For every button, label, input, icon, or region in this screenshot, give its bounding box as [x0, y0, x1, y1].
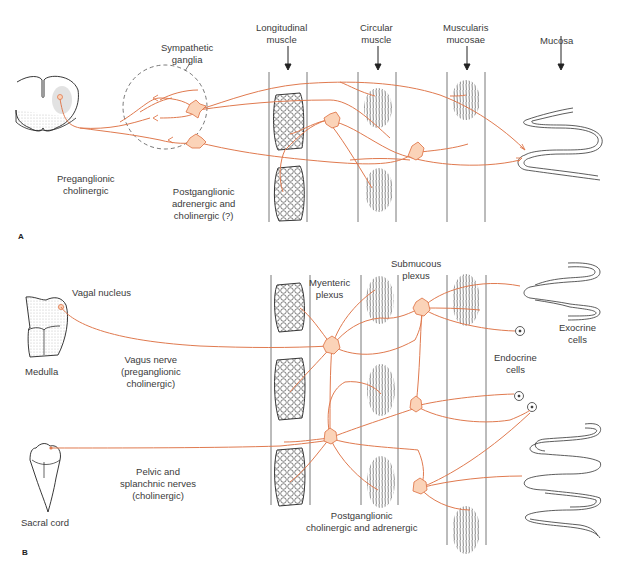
- label-myenteric-plexus: Myenteric plexus: [309, 277, 350, 301]
- muscularis-mucosae-cells-b: [452, 274, 480, 554]
- label-medulla: Medulla: [25, 366, 58, 378]
- label-muscularis-mucosae: Muscularis mucosae: [443, 22, 488, 46]
- circular-muscle-cells-b: [366, 276, 395, 508]
- label-mucosa: Mucosa: [540, 35, 573, 47]
- label-pelvic-splanchnic-nerves: Pelvic and splanchnic nerves (cholinergi…: [120, 466, 196, 502]
- layer-pointer-arrows-a: [285, 36, 564, 70]
- label-exocrine-cells: Exocrine cells: [559, 322, 596, 346]
- sacral-cord-icon: [30, 444, 61, 512]
- muscularis-mucosae-cells-a: [452, 80, 480, 120]
- panel-letter-a: A: [18, 232, 24, 241]
- label-endocrine-cells: Endocrine cells: [494, 352, 537, 376]
- label-sympathetic-ganglia: Sympathetic ganglia: [161, 42, 213, 66]
- label-sacral-cord: Sacral cord: [21, 517, 69, 529]
- label-preganglionic-cholinergic: Preganglionic cholinergic: [57, 173, 115, 197]
- label-vagal-nucleus: Vagal nucleus: [72, 287, 131, 299]
- mucosa-villus-a: [518, 108, 602, 180]
- mucosa-villi-b: [524, 263, 601, 538]
- label-submucous-plexus: Submucous plexus: [391, 258, 441, 282]
- label-postganglionic-b: Postganglionic cholinergic and adrenergi…: [306, 510, 417, 534]
- medulla-icon: [26, 297, 68, 357]
- label-vagus-nerve: Vagus nerve (preganglionic cholinergic): [121, 354, 181, 390]
- panel-letter-b: B: [22, 548, 28, 557]
- label-longitudinal-muscle: Longitudinal muscle: [256, 22, 307, 46]
- label-circular-muscle: Circular muscle: [360, 22, 393, 46]
- enteric-nervous-system-diagram: Longitudinal muscle Circular muscle Musc…: [0, 0, 625, 573]
- circular-muscle-cells-a: [364, 88, 393, 212]
- label-postganglionic-a: Postganglionic adrenergic and cholinergi…: [172, 186, 235, 222]
